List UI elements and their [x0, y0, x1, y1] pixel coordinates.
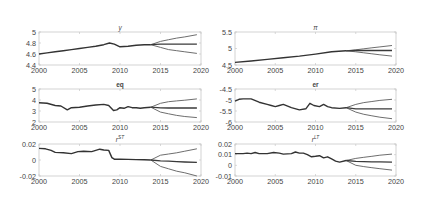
y-tick-label: 5: [32, 85, 36, 94]
y-tick-label: 0: [228, 161, 232, 170]
x-tick-label: 2020: [193, 123, 209, 132]
panel-title: eq: [116, 81, 124, 89]
y-tick-label: -6: [226, 118, 232, 127]
y-tick-label: 2: [32, 118, 36, 127]
forecast-upper-line: [346, 154, 392, 160]
history-line: [39, 148, 151, 160]
y-tick-label: 0.01: [218, 150, 232, 159]
forecast-central-line: [151, 44, 197, 45]
x-tick-label: 2015: [153, 177, 169, 186]
forecast-central-line: [151, 160, 197, 162]
axes-frame: [39, 32, 201, 65]
y-tick-label: -4.5: [220, 85, 232, 94]
forecast-central-line: [151, 107, 197, 108]
panel-eq: 200020052010201520202345eq: [31, 81, 209, 133]
x-tick-label: 2005: [267, 123, 283, 132]
x-tick-label: 2010: [112, 177, 128, 186]
forecast-upper-line: [151, 149, 197, 160]
panel-er: 20002005201020152020-6-5.5-5-4.5er: [220, 81, 404, 133]
panel-y: 200020052010201520204.44.64.85y: [26, 24, 209, 76]
panel-rST: 20002005201020152020-0.0200.02rST: [20, 135, 209, 186]
forecast-upper-line: [151, 99, 197, 107]
y-tick-label: 5: [228, 44, 232, 53]
y-tick-label: -0.01: [216, 172, 232, 181]
x-tick-label: 2015: [348, 123, 364, 132]
history-line: [39, 43, 151, 54]
panel-rLT: 20002005201020152020-0.0100.010.02rLT: [216, 135, 404, 186]
y-tick-label: 4.8: [26, 39, 36, 48]
y-tick-label: 4.5: [222, 61, 232, 70]
history-line: [235, 51, 346, 63]
x-tick-label: 2015: [348, 177, 364, 186]
forecast-lower-line: [151, 45, 197, 54]
x-tick-label: 2020: [193, 66, 209, 75]
x-tick-label: 2010: [112, 66, 128, 75]
history-line: [235, 152, 346, 162]
x-tick-label: 2005: [72, 66, 88, 75]
y-tick-label: 3: [32, 107, 36, 116]
y-tick-label: 5.5: [222, 28, 232, 37]
history-line: [235, 99, 346, 110]
x-tick-label: 2020: [388, 177, 404, 186]
panel-title: y: [117, 24, 122, 32]
figure-canvas: 200020052010201520204.44.64.85y200020052…: [0, 0, 425, 201]
x-tick-label: 2020: [388, 66, 404, 75]
axes-frame: [39, 89, 201, 122]
x-tick-label: 2020: [388, 123, 404, 132]
x-tick-label: 2005: [72, 123, 88, 132]
panel-title: π: [313, 24, 318, 31]
y-tick-label: 4.6: [26, 50, 36, 59]
forecast-upper-line: [346, 99, 392, 107]
x-tick-label: 2020: [193, 177, 209, 186]
x-tick-label: 2015: [153, 123, 169, 132]
y-tick-label: 0.02: [22, 140, 36, 149]
history-line: [39, 103, 151, 111]
forecast-central-line: [346, 161, 392, 163]
y-tick-label: -5.5: [220, 107, 232, 116]
x-tick-label: 2015: [348, 66, 364, 75]
axes-frame: [235, 144, 396, 176]
panel-title: rST: [116, 135, 125, 143]
panel-pi: 200020052010201520204.555.5π: [222, 24, 404, 76]
x-tick-label: 2010: [308, 177, 324, 186]
forecast-lower-line: [346, 51, 392, 56]
y-tick-label: 0.02: [218, 140, 232, 149]
x-tick-label: 2010: [308, 123, 324, 132]
y-tick-label: 4.4: [26, 61, 36, 70]
y-tick-label: 4: [32, 96, 36, 105]
forecast-upper-line: [151, 35, 197, 45]
forecast-central-line: [346, 108, 392, 109]
x-tick-label: 2010: [112, 123, 128, 132]
x-tick-label: 2005: [267, 66, 283, 75]
panel-title: rLT: [312, 135, 320, 143]
y-tick-label: -0.02: [20, 172, 36, 181]
y-tick-label: 0: [32, 156, 36, 165]
figure: 200020052010201520204.44.64.85y200020052…: [0, 0, 425, 201]
panel-title: er: [312, 81, 319, 88]
x-tick-label: 2015: [153, 66, 169, 75]
y-tick-label: 5: [32, 28, 36, 37]
x-tick-label: 2005: [267, 177, 283, 186]
forecast-lower-line: [151, 107, 197, 117]
x-tick-label: 2005: [72, 177, 88, 186]
x-tick-label: 2010: [308, 66, 324, 75]
y-tick-label: -5: [226, 96, 232, 105]
